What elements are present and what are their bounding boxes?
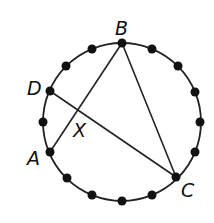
- dot: [88, 191, 97, 200]
- segment-dc: [50, 91, 176, 177]
- dot: [118, 197, 127, 206]
- dot: [172, 173, 181, 182]
- dot: [88, 45, 97, 54]
- label-a: A: [25, 147, 40, 169]
- dot: [174, 62, 183, 71]
- label-x: X: [72, 119, 87, 141]
- label-c: C: [181, 179, 195, 201]
- dot: [46, 148, 55, 157]
- dot: [196, 118, 205, 127]
- dot: [191, 148, 200, 157]
- dot: [148, 45, 157, 54]
- dot: [148, 191, 157, 200]
- segment-bc: [122, 43, 176, 177]
- dot: [39, 118, 48, 127]
- dot: [118, 39, 127, 48]
- dot: [63, 174, 72, 183]
- label-b: B: [115, 17, 128, 39]
- dot: [62, 62, 71, 71]
- dot: [191, 88, 200, 97]
- circle-diagram: B D X A C: [0, 0, 214, 223]
- dot: [46, 87, 55, 96]
- circle-dots: [39, 39, 205, 206]
- label-d: D: [27, 77, 42, 99]
